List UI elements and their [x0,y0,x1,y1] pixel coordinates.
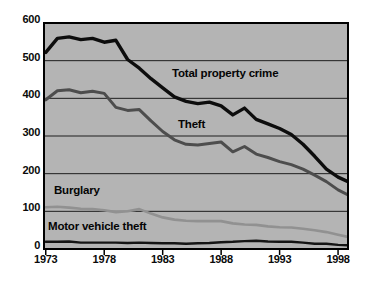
y-tick-label-100: 100 [0,201,40,214]
y-tick-label-0: 0 [0,239,40,252]
x-tick-label-1998: 1998 [319,253,357,266]
y-tick-label-500: 500 [0,51,40,64]
series-label-motor-vehicle-theft: Motor vehicle theft [48,220,146,232]
x-tick-label-1973: 1973 [27,253,65,266]
y-tick-label-600: 600 [0,13,40,26]
line-chart-canvas [0,0,371,287]
series-label-theft: Theft [178,118,205,130]
y-tick-label-400: 400 [0,88,40,101]
x-tick-label-1988: 1988 [202,253,240,266]
x-tick-label-1983: 1983 [144,253,182,266]
property-crime-rates-figure: 6005004003002001000 19731978198319881993… [0,0,371,287]
x-tick-label-1993: 1993 [261,253,299,266]
y-tick-label-300: 300 [0,126,40,139]
series-label-burglary: Burglary [54,184,100,196]
series-label-total-property-crime: Total property crime [172,67,278,79]
y-tick-label-200: 200 [0,164,40,177]
x-tick-label-1978: 1978 [85,253,123,266]
